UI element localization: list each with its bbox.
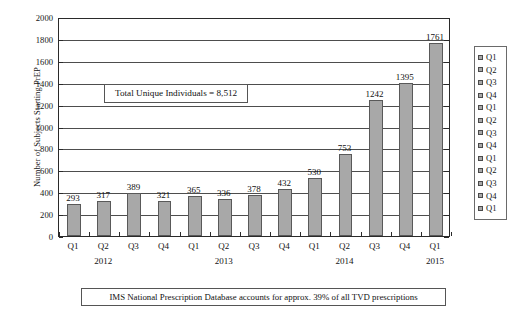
x-axis-year-label: 2015 xyxy=(405,256,465,266)
legend-swatch-icon xyxy=(478,67,483,72)
x-tick-mark xyxy=(451,232,452,236)
y-tick-mark-right xyxy=(444,149,449,150)
bar xyxy=(399,83,413,236)
bar xyxy=(127,193,141,236)
gridline xyxy=(59,40,449,41)
bar xyxy=(278,189,292,236)
x-axis-year-label: 2014 xyxy=(314,256,374,266)
legend-swatch-icon xyxy=(478,206,483,211)
y-tick-mark-right xyxy=(444,84,449,85)
y-tick-mark-right xyxy=(444,106,449,107)
y-tick-mark-right xyxy=(444,237,449,238)
legend-item-label: Q1 xyxy=(486,204,497,213)
y-tick-label: 1200 xyxy=(13,101,53,111)
y-tick-label: 1800 xyxy=(13,35,53,45)
gridline xyxy=(59,106,449,107)
legend-item-label: Q1 xyxy=(486,154,497,163)
y-tick-label: 400 xyxy=(13,188,53,198)
x-tick-label: Q1 xyxy=(415,241,455,251)
y-tick-mark xyxy=(59,171,63,172)
legend-item[interactable]: Q1 xyxy=(478,202,503,215)
y-tick-mark xyxy=(59,62,63,63)
x-tick-mark xyxy=(421,232,422,236)
bar-value-label: 1242 xyxy=(366,89,384,99)
y-tick-mark xyxy=(59,106,63,107)
legend-item[interactable]: Q3 xyxy=(478,177,503,190)
gridline xyxy=(59,149,449,150)
bar xyxy=(158,201,172,236)
legend-item-label: Q1 xyxy=(486,103,497,112)
x-tick-mark xyxy=(240,232,241,236)
legend-item[interactable]: Q1 xyxy=(478,51,503,64)
legend-item[interactable]: Q2 xyxy=(478,164,503,177)
y-tick-label: 200 xyxy=(13,210,53,220)
y-tick-label: 0 xyxy=(13,232,53,242)
bar-value-label: 432 xyxy=(277,178,291,188)
x-tick-mark xyxy=(391,232,392,236)
bar-value-label: 293 xyxy=(66,193,80,203)
x-axis-year-label: 2012 xyxy=(73,256,133,266)
chart-legend: Q1Q2Q3Q4Q1Q2Q3Q4Q1Q2Q3Q4Q1 xyxy=(474,46,507,220)
bar xyxy=(218,199,232,236)
legend-item[interactable]: Q1 xyxy=(478,152,503,165)
bar-value-label: 1761 xyxy=(426,32,444,42)
y-tick-label: 800 xyxy=(13,144,53,154)
y-tick-mark-right xyxy=(444,62,449,63)
y-tick-mark xyxy=(59,193,63,194)
y-tick-mark-right xyxy=(444,18,449,19)
x-tick-mark xyxy=(180,232,181,236)
legend-swatch-icon xyxy=(478,156,483,161)
legend-swatch-icon xyxy=(478,143,483,148)
x-tick-mark xyxy=(149,232,150,236)
bar xyxy=(67,204,81,236)
legend-item[interactable]: Q3 xyxy=(478,76,503,89)
legend-swatch-icon xyxy=(478,80,483,85)
bar-value-label: 389 xyxy=(127,182,141,192)
bar-value-label: 336 xyxy=(217,188,231,198)
legend-swatch-icon xyxy=(478,193,483,198)
bar-chart-figure: Number of Subjects Starting PrEP 0200400… xyxy=(0,0,530,320)
legend-item[interactable]: Q4 xyxy=(478,89,503,102)
x-tick-mark xyxy=(210,232,211,236)
bar xyxy=(308,178,322,236)
legend-item-label: Q4 xyxy=(486,141,497,150)
legend-item-label: Q2 xyxy=(486,166,497,175)
y-tick-label: 1400 xyxy=(13,79,53,89)
bar xyxy=(97,201,111,236)
bar-value-label: 753 xyxy=(338,143,352,153)
legend-item[interactable]: Q4 xyxy=(478,139,503,152)
y-tick-mark xyxy=(59,128,63,129)
legend-item-label: Q2 xyxy=(486,116,497,125)
legend-item[interactable]: Q2 xyxy=(478,64,503,77)
legend-item[interactable]: Q3 xyxy=(478,127,503,140)
legend-swatch-icon xyxy=(478,181,483,186)
y-tick-mark xyxy=(59,40,63,41)
x-tick-mark xyxy=(270,232,271,236)
legend-swatch-icon xyxy=(478,55,483,60)
legend-swatch-icon xyxy=(478,130,483,135)
bar-value-label: 317 xyxy=(96,190,110,200)
legend-item-label: Q3 xyxy=(486,78,497,87)
x-tick-mark xyxy=(330,232,331,236)
y-tick-mark-right xyxy=(444,128,449,129)
annotation-textbox: Total Unique Individuals = 8,512 xyxy=(104,84,248,103)
bar xyxy=(369,100,383,236)
legend-item-label: Q1 xyxy=(486,53,497,62)
gridline xyxy=(59,171,449,172)
y-tick-label: 600 xyxy=(13,166,53,176)
legend-item[interactable]: Q4 xyxy=(478,190,503,203)
bar-value-label: 321 xyxy=(157,190,171,200)
y-tick-label: 1600 xyxy=(13,57,53,67)
x-tick-mark xyxy=(59,232,60,236)
x-tick-mark xyxy=(361,232,362,236)
x-axis-year-label: 2013 xyxy=(194,256,254,266)
plot-area xyxy=(58,18,450,237)
y-tick-mark-right xyxy=(444,171,449,172)
y-tick-mark xyxy=(59,149,63,150)
legend-item[interactable]: Q2 xyxy=(478,114,503,127)
legend-item[interactable]: Q1 xyxy=(478,101,503,114)
bar xyxy=(429,43,443,236)
legend-swatch-icon xyxy=(478,105,483,110)
legend-item-label: Q4 xyxy=(486,192,497,201)
bar-value-label: 378 xyxy=(247,184,261,194)
